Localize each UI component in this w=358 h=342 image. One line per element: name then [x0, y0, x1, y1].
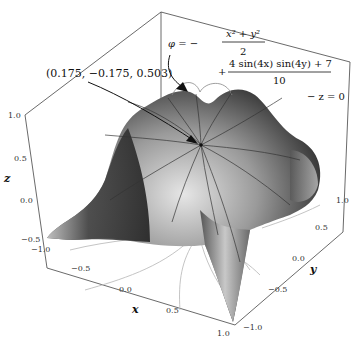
z-axis: 1.0 0.5 0.0 −0.5 z	[3, 111, 40, 244]
x-axis: −1.0 −0.5 0.0 0.5 1.0 x	[31, 245, 230, 338]
svg-text:1.0: 1.0	[8, 111, 21, 120]
svg-text:1.0: 1.0	[336, 196, 349, 205]
svg-text:−1.0: −1.0	[31, 245, 50, 254]
equation-label: φ = − x² + y² 2 + 4 sin(4x) sin(4y) + 7 …	[168, 28, 345, 102]
annotated-point	[199, 143, 203, 147]
svg-text:4 sin(4x) sin(4y) + 7: 4 sin(4x) sin(4y) + 7	[229, 58, 332, 69]
point-annotation-label: (0.175, −0.175, 0.503)	[46, 67, 172, 80]
surface-plot-3d: (0.175, −0.175, 0.503) φ = − x² + y² 2 +…	[0, 0, 358, 342]
svg-text:z: z	[3, 172, 11, 185]
svg-text:1.0: 1.0	[217, 329, 230, 338]
svg-text:−0.5: −0.5	[21, 235, 40, 244]
svg-text:−0.5: −0.5	[268, 285, 287, 294]
svg-text:0.5: 0.5	[315, 223, 328, 232]
svg-text:2: 2	[240, 46, 246, 57]
svg-text:10: 10	[273, 75, 286, 86]
svg-text:0.0: 0.0	[292, 254, 305, 263]
svg-text:x: x	[131, 303, 139, 316]
svg-text:0.0: 0.0	[20, 196, 33, 205]
svg-text:−1.0: −1.0	[243, 323, 262, 332]
svg-text:− z = 0: − z = 0	[307, 91, 345, 102]
svg-text:0.5: 0.5	[14, 154, 27, 163]
svg-text:x² + y²: x² + y²	[226, 28, 260, 39]
svg-text:−0.5: −0.5	[71, 264, 90, 273]
svg-text:+: +	[218, 66, 226, 77]
svg-text:0.0: 0.0	[119, 285, 132, 294]
svg-text:φ = −: φ = −	[168, 38, 198, 49]
svg-text:0.5: 0.5	[166, 306, 179, 315]
svg-text:y: y	[309, 263, 318, 276]
